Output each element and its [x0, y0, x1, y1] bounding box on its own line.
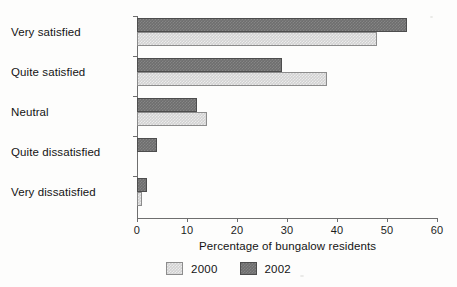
bar-quite-satisfied-2000 [137, 72, 327, 86]
category-label-quite-dissatisfied: Quite dissatisfied [11, 146, 133, 158]
bar-chart: Very satisfied Quite satisfied Neutral Q… [0, 0, 457, 287]
legend-label-2002: 2002 [265, 263, 291, 275]
legend-swatch-2000-icon [166, 262, 183, 275]
legend-item-2000: 2000 [166, 262, 217, 275]
x-axis-tick-label-30: 30 [267, 224, 307, 236]
bar-very-dissatisfied-2002 [137, 178, 147, 192]
chart-legend: 2000 2002 [0, 262, 457, 275]
legend-label-2000: 2000 [191, 263, 217, 275]
x-axis-tick-label-40: 40 [317, 224, 357, 236]
legend-item-2002: 2002 [240, 262, 291, 275]
bar-neutral-2002 [137, 98, 197, 112]
x-axis-tick-label-60: 60 [417, 224, 457, 236]
x-axis-tick-label-50: 50 [367, 224, 407, 236]
x-axis-title: Percentage of bungalow residents [137, 240, 438, 252]
x-axis-tick [337, 218, 338, 222]
x-axis-tick [287, 218, 288, 222]
x-axis-tick-label-10: 10 [167, 224, 207, 236]
category-label-very-dissatisfied: Very dissatisfied [11, 186, 133, 198]
plot-area [137, 16, 437, 218]
x-axis-tick [237, 218, 238, 222]
legend-swatch-2002-icon [240, 262, 257, 275]
category-label-quite-satisfied: Quite satisfied [11, 66, 133, 78]
bar-quite-satisfied-2002 [137, 58, 282, 72]
x-axis-tick-label-0: 0 [117, 224, 157, 236]
bar-quite-dissatisfied-2002 [137, 138, 157, 152]
scan-artifact [300, 275, 304, 277]
x-axis-tick [187, 218, 188, 222]
bar-neutral-2000 [137, 112, 207, 126]
category-label-neutral: Neutral [11, 106, 133, 118]
category-label-very-satisfied: Very satisfied [11, 26, 133, 38]
x-axis-tick-label-20: 20 [217, 224, 257, 236]
bar-very-dissatisfied-2000 [137, 192, 142, 206]
x-axis-tick [137, 218, 138, 222]
bar-very-satisfied-2002 [137, 18, 407, 32]
bar-very-satisfied-2000 [137, 32, 377, 46]
x-axis-tick [437, 218, 438, 222]
scan-artifact [430, 16, 433, 18]
x-axis-tick [387, 218, 388, 222]
